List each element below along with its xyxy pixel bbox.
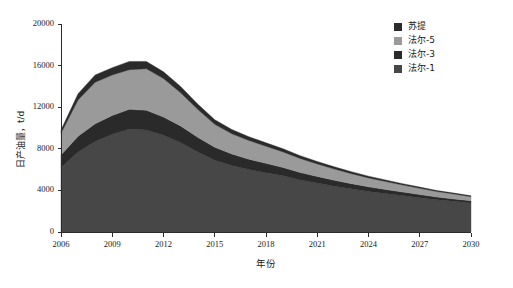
legend-swatch-icon <box>394 37 402 45</box>
x-tick-mark <box>471 233 472 237</box>
x-tick-mark <box>163 233 164 237</box>
x-tick-mark <box>214 233 215 237</box>
y-tick-label: 12000 <box>11 101 54 111</box>
y-tick-label: 4000 <box>11 184 54 194</box>
legend-item: 苏提 <box>394 22 435 31</box>
legend-label: 法尔-1 <box>408 64 435 73</box>
legend-swatch-icon <box>394 23 402 31</box>
y-axis-title: 日产油量，t/d <box>14 111 27 168</box>
x-tick-mark <box>368 233 369 237</box>
y-tick-label: 16000 <box>11 60 54 70</box>
x-tick-label: 2024 <box>349 239 389 249</box>
x-tick-mark <box>112 233 113 237</box>
legend-label: 苏提 <box>408 22 426 31</box>
x-tick-label: 2030 <box>451 239 491 249</box>
y-tick-mark <box>58 190 62 191</box>
legend-item: 法尔-1 <box>394 64 435 73</box>
y-axis-line <box>61 24 62 232</box>
stacked-area-chart: 040008000120001600020000 200620092012201… <box>0 0 513 288</box>
x-tick-label: 2006 <box>41 239 81 249</box>
legend-label: 法尔-3 <box>408 50 435 59</box>
chart-legend: 苏提法尔-5法尔-3法尔-1 <box>394 22 435 73</box>
x-tick-mark <box>61 233 62 237</box>
x-axis-title: 年份 <box>226 256 306 270</box>
x-tick-mark <box>317 233 318 237</box>
y-tick-label: 0 <box>11 226 54 236</box>
legend-swatch-icon <box>394 51 402 59</box>
legend-swatch-icon <box>394 65 402 73</box>
y-tick-label: 20000 <box>11 18 54 28</box>
x-tick-label: 2021 <box>297 239 337 249</box>
y-tick-mark <box>58 148 62 149</box>
x-tick-label: 2009 <box>92 239 132 249</box>
y-tick-mark <box>58 65 62 66</box>
x-tick-label: 2012 <box>144 239 184 249</box>
x-tick-mark <box>266 233 267 237</box>
legend-item: 法尔-5 <box>394 36 435 45</box>
y-tick-mark <box>58 24 62 25</box>
y-tick-mark <box>58 107 62 108</box>
x-tick-label: 2018 <box>246 239 286 249</box>
x-tick-label: 2027 <box>400 239 440 249</box>
x-tick-mark <box>419 233 420 237</box>
legend-item: 法尔-3 <box>394 50 435 59</box>
legend-label: 法尔-5 <box>408 36 435 45</box>
x-tick-label: 2015 <box>195 239 235 249</box>
